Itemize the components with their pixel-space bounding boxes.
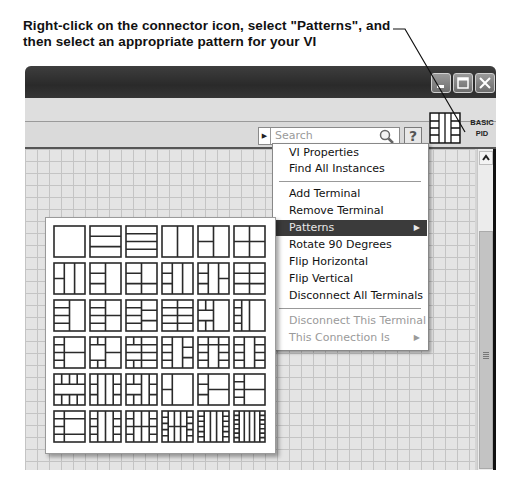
menu-item-vi-properties[interactable]: VI Properties [274,145,427,161]
pattern-13[interactable] [54,300,85,331]
pattern-7[interactable] [54,263,85,294]
callout-leader-line [0,0,527,200]
pattern-24[interactable] [234,337,265,368]
pattern-3[interactable] [126,226,157,257]
pattern-30[interactable] [234,374,265,405]
pattern-19[interactable] [54,337,85,368]
menu-item-this-connection-label: This Connection Is [289,331,390,344]
pattern-4[interactable] [162,226,193,257]
patterns-grid [46,218,275,453]
pattern-23[interactable] [198,337,229,368]
menu-separator [279,181,421,182]
menu-item-remove-terminal[interactable]: Remove Terminal [274,203,427,219]
pattern-11[interactable] [198,263,229,294]
pattern-36[interactable] [234,411,265,442]
grip-icon [483,352,489,359]
menu-item-find-all-instances[interactable]: Find All Instances [274,161,427,177]
pattern-29[interactable] [198,374,229,405]
pattern-32[interactable] [90,411,121,442]
pattern-31[interactable] [54,411,85,442]
menu-item-flip-vertical[interactable]: Flip Vertical [274,271,427,287]
pattern-17[interactable] [198,300,229,331]
menu-separator [279,308,421,309]
pattern-26[interactable] [90,374,121,405]
pattern-28[interactable] [162,374,193,405]
pattern-10[interactable] [162,263,193,294]
scrollbar-thumb[interactable] [479,231,493,469]
pattern-8[interactable] [90,263,121,294]
menu-item-rotate-90[interactable]: Rotate 90 Degrees [274,237,427,253]
pattern-15[interactable] [126,300,157,331]
pattern-35[interactable] [198,411,229,442]
menu-item-patterns-label: Patterns [289,221,334,234]
pattern-20[interactable] [90,337,121,368]
pattern-27[interactable] [126,374,157,405]
menu-item-this-connection-is: This Connection Is ▶ [274,330,427,346]
menu-item-disconnect-all[interactable]: Disconnect All Terminals [274,288,427,304]
pattern-18[interactable] [234,300,265,331]
context-menu: VI Properties Find All Instances Add Ter… [272,143,429,351]
menu-item-disconnect-this: Disconnect This Terminal [274,313,427,329]
pattern-9[interactable] [126,263,157,294]
pattern-5[interactable] [198,226,229,257]
pattern-14[interactable] [90,300,121,331]
pattern-25[interactable] [54,374,85,405]
pattern-1[interactable] [54,226,85,257]
pattern-16[interactable] [162,300,193,331]
pattern-33[interactable] [126,411,157,442]
patterns-palette [45,217,276,454]
pattern-22[interactable] [162,337,193,368]
pattern-34[interactable] [162,411,193,442]
submenu-arrow-icon: ▶ [414,330,420,346]
submenu-arrow-icon: ▶ [414,220,420,236]
pattern-12[interactable] [234,263,265,294]
menu-item-flip-horizontal[interactable]: Flip Horizontal [274,254,427,270]
pattern-6[interactable] [234,226,265,257]
menu-item-add-terminal[interactable]: Add Terminal [274,186,427,202]
pattern-2[interactable] [90,226,121,257]
menu-item-patterns[interactable]: Patterns ▶ [274,220,427,236]
pattern-21[interactable] [126,337,157,368]
